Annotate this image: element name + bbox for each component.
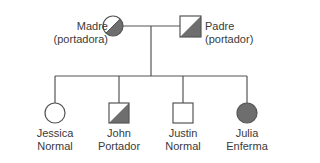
julia-status: Enferma xyxy=(217,140,276,153)
jessica-name: Jessica xyxy=(25,127,85,140)
father-label: Padre (portador) xyxy=(205,20,253,46)
mother-status: (portadora) xyxy=(54,33,108,46)
father-name: Padre xyxy=(205,20,253,33)
father-status: (portador) xyxy=(205,33,253,46)
justin-label: Justin Normal xyxy=(153,127,213,153)
jessica-status: Normal xyxy=(25,140,85,153)
justin-symbol xyxy=(173,103,193,123)
father-symbol xyxy=(180,16,201,37)
john-name: John xyxy=(89,127,149,140)
julia-symbol xyxy=(237,103,257,123)
julia-name: Julia xyxy=(217,127,276,140)
john-label: John Portador xyxy=(89,127,149,153)
mother-label: Madre (portadora) xyxy=(54,20,108,46)
julia-label: Julia Enferma xyxy=(217,127,276,153)
jessica-label: Jessica Normal xyxy=(25,127,85,153)
john-status: Portador xyxy=(89,140,149,153)
jessica-symbol xyxy=(45,103,65,123)
justin-status: Normal xyxy=(153,140,213,153)
mother-name: Madre xyxy=(54,20,108,33)
justin-name: Justin xyxy=(153,127,213,140)
john-symbol xyxy=(109,103,129,123)
